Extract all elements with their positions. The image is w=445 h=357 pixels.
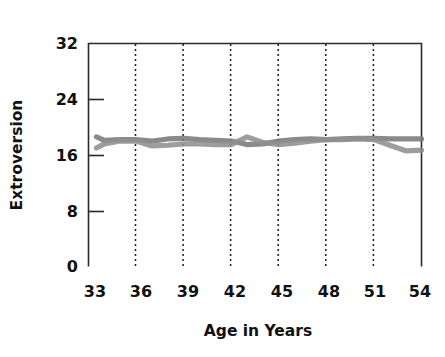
y-tick-labels: 32 24 16 8 0 bbox=[56, 34, 78, 276]
plot-frame-path bbox=[89, 44, 422, 267]
chart-figure: 32 24 16 8 0 33 36 39 42 45 48 51 54 Ext… bbox=[0, 0, 445, 357]
y-tick-label-32: 32 bbox=[56, 34, 78, 53]
y-tick-label-16: 16 bbox=[56, 146, 78, 165]
x-tick-label-42: 42 bbox=[224, 282, 246, 301]
y-axis-title: Extroversion bbox=[8, 100, 26, 211]
x-tick-label-51: 51 bbox=[364, 282, 386, 301]
y-tick-label-8: 8 bbox=[67, 202, 78, 221]
data-series-group bbox=[96, 137, 421, 151]
x-axis-title: Age in Years bbox=[204, 322, 312, 340]
y-tick-label-24: 24 bbox=[56, 90, 78, 109]
extroversion-line-chart: 32 24 16 8 0 33 36 39 42 45 48 51 54 Ext… bbox=[0, 0, 445, 357]
vertical-gridlines bbox=[136, 44, 374, 266]
y-tick-label-0: 0 bbox=[67, 257, 78, 276]
y-tick-marks bbox=[89, 100, 105, 212]
x-tick-label-33: 33 bbox=[84, 282, 106, 301]
x-tick-label-39: 39 bbox=[177, 282, 199, 301]
x-tick-label-45: 45 bbox=[271, 282, 293, 301]
axis-frame bbox=[89, 44, 422, 267]
x-tick-label-54: 54 bbox=[409, 282, 431, 301]
x-tick-label-48: 48 bbox=[318, 282, 340, 301]
x-tick-label-36: 36 bbox=[130, 282, 152, 301]
x-tick-labels: 33 36 39 42 45 48 51 54 bbox=[84, 282, 431, 301]
